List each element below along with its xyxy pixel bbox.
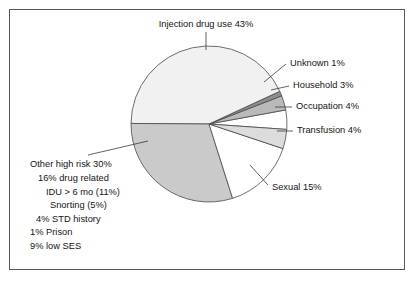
label-occupation: Occupation 4% [296, 101, 359, 111]
pie-chart-figure: Injection drug use 43%Unknown 1%Househol… [0, 0, 415, 282]
label-other-high-risk-line-3: Snorting (5%) [50, 200, 107, 210]
pie-chart-canvas: Injection drug use 43%Unknown 1%Househol… [0, 0, 415, 282]
label-other-high-risk-line-1: 16% drug related [38, 173, 109, 183]
label-other-high-risk-line-0: Other high risk 30% [30, 159, 112, 169]
label-injection: Injection drug use 43% [159, 19, 254, 29]
label-household: Household 3% [293, 80, 353, 90]
label-transfusion: Transfusion 4% [297, 125, 361, 135]
pie-slices [131, 46, 287, 202]
label-other-high-risk-line-5: 1% Prison [30, 227, 72, 237]
label-other-high-risk-line-4: 4% STD history [36, 214, 101, 224]
label-other-high-risk-line-6: 9% low SES [30, 241, 81, 251]
label-unknown: Unknown 1% [290, 58, 345, 68]
label-other-high-risk-line-2: IDU > 6 mo (11%) [46, 187, 120, 197]
label-sexual: Sexual 15% [272, 182, 322, 192]
